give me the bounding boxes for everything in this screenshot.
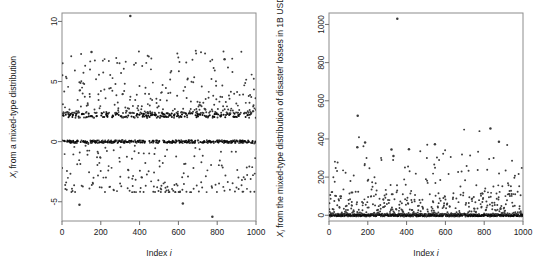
data-point [184,116,186,118]
data-point [194,147,196,149]
data-point [138,50,140,52]
data-point [134,99,136,101]
data-point [176,53,178,55]
data-point [235,102,237,104]
data-point [491,205,493,207]
data-point [141,105,143,107]
data-point [194,140,196,142]
y-tick-label: 200 [316,170,326,184]
data-point [89,96,91,98]
data-point [445,198,447,200]
y-axis-title: Xi from a mixed-type distribution [8,56,19,179]
data-point [79,151,81,153]
data-point [496,192,498,194]
data-point [368,167,370,169]
data-point [250,112,252,114]
data-point [384,205,386,207]
data-point [119,183,121,185]
data-point [426,180,428,182]
y-tick-label: 0 [49,139,59,144]
data-point [461,153,463,155]
data-point [238,115,240,117]
data-point [243,176,245,178]
data-point [96,156,98,158]
data-point [504,195,506,197]
data-point [123,68,125,70]
data-point [246,174,248,176]
data-point [436,157,438,159]
data-point [469,155,471,157]
data-point-outlier [78,204,81,207]
data-point [518,208,520,210]
data-point [132,141,134,143]
data-point [221,165,223,167]
data-point [150,180,152,182]
data-point [353,211,355,213]
data-point [178,70,180,72]
data-point [128,108,130,110]
data-point [251,74,253,76]
data-point [103,116,105,118]
data-point [80,80,82,82]
data-point [405,184,407,186]
data-point [84,65,86,67]
data-point [134,145,136,147]
data-point-outlier [182,202,185,205]
data-point [93,177,95,179]
data-point [422,208,424,210]
data-point [379,198,381,200]
data-point [104,191,106,193]
data-point [390,184,392,186]
data-point [88,115,90,117]
data-point [62,103,64,105]
data-point [348,203,350,205]
data-point [83,83,85,85]
data-point [159,160,161,162]
data-point [514,175,516,177]
data-point [63,112,65,114]
data-point [165,190,167,192]
data-point [174,108,176,110]
data-point [98,99,100,101]
data-point [165,116,167,118]
data-point [206,169,208,171]
data-point [465,204,467,206]
data-point [238,188,240,190]
data-point [133,112,135,114]
data-point [252,140,254,142]
data-point [185,191,187,193]
data-point [411,209,413,211]
data-point [166,100,168,102]
data-point [63,115,65,117]
data-point [351,192,353,194]
data-point [375,182,377,184]
data-point [201,85,203,87]
data-point [66,170,68,172]
data-point [184,86,186,88]
left-plot-svg: 02004006008001000-50510Index iXi from a … [0,0,268,272]
data-point [211,110,213,112]
data-point [473,196,475,198]
data-point [125,61,127,63]
data-point [82,72,84,74]
data-point [512,205,514,207]
data-point [162,162,164,164]
data-point [69,173,71,175]
data-point [167,92,169,94]
data-point [161,115,163,117]
data-point [218,101,220,103]
data-point [157,179,159,181]
data-point [471,200,473,202]
data-point [180,139,182,141]
data-point [468,196,470,198]
data-point [252,174,254,176]
data-point [183,172,185,174]
data-point [194,109,196,111]
data-point [97,152,99,154]
data-point [151,113,153,115]
data-point [372,203,374,205]
data-point [86,111,88,113]
y-tick-label: 600 [316,93,326,107]
data-point [468,206,470,208]
data-point [141,112,143,114]
